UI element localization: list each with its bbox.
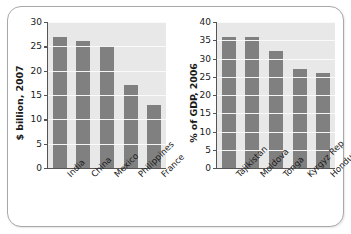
gridline <box>48 95 166 96</box>
x-tick-label: Honduras <box>328 172 335 179</box>
bar <box>293 69 307 168</box>
gridline <box>48 71 166 72</box>
x-tick-label: Moldova <box>258 172 265 179</box>
chart-panel-right: % of GDP, 2006 0510152025303540 Tajikist… <box>175 0 350 234</box>
y-tick <box>213 59 216 60</box>
gridline <box>217 150 335 151</box>
y-tick <box>213 150 216 151</box>
y-tick-label: 35 <box>189 35 211 45</box>
y-axis-line-right <box>216 22 217 169</box>
x-tick-label: Tajikistan <box>234 172 241 179</box>
plot-area-left <box>48 22 166 168</box>
bar <box>222 37 236 168</box>
y-tick-label: 25 <box>20 41 42 51</box>
gridline <box>48 144 166 145</box>
y-tick-label: 5 <box>189 145 211 155</box>
x-tick-label: Kyrgyz Rep <box>305 172 312 179</box>
y-tick <box>213 22 216 23</box>
gridline <box>217 77 335 78</box>
x-tick-label: Mexico <box>112 172 119 179</box>
y-tick <box>213 132 216 133</box>
y-tick <box>44 119 47 120</box>
y-tick-label: 5 <box>20 139 42 149</box>
figure-container: $ billion, 2007 051015202530 IndiaChinaM… <box>0 0 351 234</box>
y-tick-label: 15 <box>189 108 211 118</box>
x-tick-label: France <box>159 172 166 179</box>
y-tick-label: 10 <box>20 114 42 124</box>
x-tick-label: Tonga <box>281 172 288 179</box>
y-tick-label: 30 <box>20 17 42 27</box>
y-tick <box>213 95 216 96</box>
y-tick <box>44 144 47 145</box>
y-tick-label: 0 <box>20 163 42 173</box>
gridline <box>48 22 166 23</box>
y-tick <box>44 168 47 169</box>
chart-panels: $ billion, 2007 051015202530 IndiaChinaM… <box>0 0 351 234</box>
y-tick-label: 20 <box>189 90 211 100</box>
gridline <box>48 119 166 120</box>
chart-panel-left: $ billion, 2007 051015202530 IndiaChinaM… <box>0 0 175 234</box>
y-tick <box>213 168 216 169</box>
x-tick-label-group-left: IndiaChinaMexicoPhilippinesFrance <box>48 170 166 230</box>
gridline <box>217 132 335 133</box>
plot-area-right <box>217 22 335 168</box>
x-tick-label-group-right: TajikistanMoldovaTongaKyrgyz RepHonduras <box>217 170 335 230</box>
y-tick <box>44 46 47 47</box>
y-axis-line-left <box>47 22 48 169</box>
x-tick-label: India <box>65 172 72 179</box>
gridline <box>217 40 335 41</box>
y-tick <box>44 22 47 23</box>
y-tick-label: 25 <box>189 72 211 82</box>
gridline <box>48 46 166 47</box>
y-tick <box>213 77 216 78</box>
y-tick-label: 40 <box>189 17 211 27</box>
y-tick <box>213 113 216 114</box>
y-tick-label: 20 <box>20 66 42 76</box>
y-tick-label: 0 <box>189 163 211 173</box>
bar <box>53 37 67 168</box>
bar <box>100 46 114 168</box>
bar <box>76 41 90 168</box>
y-tick-label: 15 <box>20 90 42 100</box>
gridline <box>217 22 335 23</box>
gridline <box>217 113 335 114</box>
gridline <box>217 95 335 96</box>
y-tick <box>213 40 216 41</box>
y-tick-label: 10 <box>189 127 211 137</box>
y-tick <box>44 71 47 72</box>
x-tick-label: China <box>89 172 96 179</box>
gridline <box>217 59 335 60</box>
y-tick <box>44 95 47 96</box>
x-tick-label: Philippines <box>136 172 143 179</box>
y-tick-label: 30 <box>189 54 211 64</box>
